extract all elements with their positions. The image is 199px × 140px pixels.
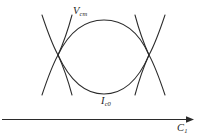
label-vcm-subscript: cm: [80, 10, 88, 17]
label-x-axis-c1: C1: [177, 123, 187, 134]
label-vcm: Vcm: [73, 6, 87, 17]
figure-container: Vcm Ic0 C1: [0, 0, 199, 140]
label-ic0-symbol: I: [101, 95, 105, 106]
x-axis-arrowhead-icon: [186, 116, 194, 122]
label-c1-subscript: 1: [184, 127, 187, 134]
label-ic0-subscript: c0: [105, 100, 111, 107]
label-ic0: Ic0: [101, 96, 111, 107]
plot-canvas: [0, 0, 199, 140]
label-vcm-symbol: V: [73, 5, 79, 16]
label-c1-symbol: C: [177, 122, 184, 133]
curve-vcm-upper-arc: [58, 20, 149, 55]
curve-ic0-lower-arc: [58, 55, 149, 94]
